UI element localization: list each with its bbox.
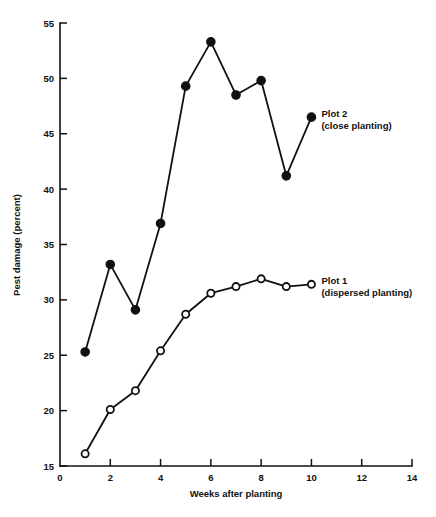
pest-damage-line-chart: 152025303540455055 02468101214 Pest dama…: [0, 0, 436, 517]
data-point-marker: [182, 82, 190, 90]
data-point-marker: [107, 406, 114, 413]
x-axis-title: Weeks after planting: [190, 488, 283, 499]
series-line-plot-1: [85, 279, 311, 454]
y-tick-label: 45: [43, 128, 54, 139]
x-tick-label: 12: [356, 472, 367, 483]
y-tick-label: 35: [43, 239, 54, 250]
data-point-marker: [283, 283, 290, 290]
x-tick-label: 6: [208, 472, 213, 483]
data-point-marker: [258, 275, 265, 282]
data-point-marker: [257, 76, 265, 84]
y-tick-label: 15: [43, 461, 54, 472]
series-label-line2: (close planting): [321, 120, 391, 131]
y-tick-label: 25: [43, 350, 54, 361]
y-tick-label: 55: [43, 18, 54, 29]
series-label-line2: (dispersed planting): [321, 287, 412, 298]
data-point-marker: [156, 219, 164, 227]
data-point-marker: [207, 290, 214, 297]
x-tick-label: 8: [258, 472, 263, 483]
series-markers: [81, 38, 316, 458]
y-tick-label: 30: [43, 294, 54, 305]
y-tick-label: 50: [43, 73, 54, 84]
x-axis-ticks: [110, 459, 412, 466]
x-tick-label: 14: [407, 472, 418, 483]
series-polylines: [85, 42, 311, 454]
y-axis: 152025303540455055: [43, 18, 67, 472]
series-line-plot-2: [85, 42, 311, 352]
x-tick-label: 2: [108, 472, 113, 483]
data-point-marker: [82, 450, 89, 457]
data-point-marker: [182, 311, 189, 318]
data-point-marker: [132, 387, 139, 394]
data-point-marker: [81, 348, 89, 356]
y-axis-tick-labels: 152025303540455055: [43, 18, 54, 472]
y-axis-title: Pest damage (percent): [11, 194, 22, 296]
data-point-marker: [157, 347, 164, 354]
data-point-marker: [282, 172, 290, 180]
data-point-marker: [232, 91, 240, 99]
data-point-marker: [232, 283, 239, 290]
x-axis: 02468101214: [57, 459, 418, 483]
y-axis-ticks: [60, 23, 67, 466]
series-label-line1: Plot 2: [321, 108, 347, 119]
x-tick-label: 4: [158, 472, 164, 483]
data-point-marker: [207, 38, 215, 46]
data-point-marker: [106, 260, 114, 268]
x-tick-label: 0: [57, 472, 62, 483]
chart-canvas: 152025303540455055 02468101214 Pest dama…: [0, 0, 436, 517]
data-point-marker: [131, 306, 139, 314]
y-tick-label: 20: [43, 405, 54, 416]
data-point-marker: [307, 113, 315, 121]
x-axis-tick-labels: 02468101214: [57, 472, 418, 483]
x-tick-label: 10: [306, 472, 317, 483]
series-inline-labels: Plot 2(close planting)Plot 1(dispersed p…: [321, 108, 412, 298]
series-label-line1: Plot 1: [321, 275, 348, 286]
data-point-marker: [308, 281, 315, 288]
y-tick-label: 40: [43, 184, 54, 195]
